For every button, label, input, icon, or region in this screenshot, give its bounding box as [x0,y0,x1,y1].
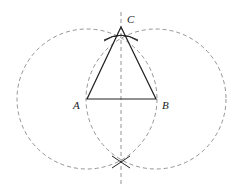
diagram-svg [0,0,239,184]
label-point-a: A [73,100,80,111]
label-point-b: B [162,100,169,111]
construction-diagram: C A B [0,0,239,184]
label-point-c: C [127,14,134,25]
